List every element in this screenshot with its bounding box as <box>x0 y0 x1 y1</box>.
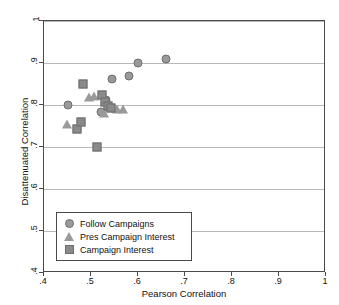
x-tick-label: .7 <box>169 276 199 286</box>
x-tick-label: .6 <box>122 276 152 286</box>
data-point-square <box>93 143 102 152</box>
data-point-triangle <box>118 104 128 113</box>
gridline-y <box>44 21 324 22</box>
y-tick-label-text: .5 <box>29 225 39 233</box>
y-tick-label-text: .7 <box>29 141 39 149</box>
x-tick-label: .5 <box>75 276 105 286</box>
data-point-square <box>78 80 87 89</box>
gridline-y <box>44 189 324 190</box>
y-tick-label-text: .9 <box>29 57 39 65</box>
scatter-plot-figure: .4.5.6.7.8.91.4.5.6.7.8.91 Pearson Corre… <box>0 0 339 305</box>
data-point-square <box>76 117 85 126</box>
gridline-y <box>44 63 324 64</box>
y-tick-mark <box>39 230 43 231</box>
y-tick-label: 1 <box>0 14 38 24</box>
legend-item-square[interactable]: Campaign Interest <box>62 243 186 256</box>
y-tick-label: .9 <box>0 56 38 66</box>
legend-item-label: Campaign Interest <box>80 245 154 255</box>
data-point-circle <box>134 59 143 68</box>
y-tick-label-text: 1 <box>30 16 40 21</box>
y-tick-mark <box>39 188 43 189</box>
triangle-marker-icon <box>62 232 76 241</box>
data-point-circle <box>108 74 117 83</box>
data-point-triangle <box>62 120 72 129</box>
data-point-circle <box>162 54 171 63</box>
x-tick-label: .9 <box>263 276 293 286</box>
legend-item-label: Follow Campaigns <box>80 219 154 229</box>
square-marker-icon <box>62 245 76 254</box>
gridline-y <box>44 147 324 148</box>
data-point-square <box>107 103 116 112</box>
x-tick-label: .4 <box>28 276 58 286</box>
x-axis-title: Pearson Correlation <box>43 288 325 299</box>
y-tick-label-text: .4 <box>29 267 39 275</box>
legend-item-circle[interactable]: Follow Campaigns <box>62 217 186 230</box>
legend-item-triangle[interactable]: Pres Campaign Interest <box>62 230 186 243</box>
y-tick-label-text: .8 <box>29 99 39 107</box>
data-point-circle <box>63 101 72 110</box>
y-tick-mark <box>39 146 43 147</box>
y-tick-label-text: .6 <box>29 183 39 191</box>
y-tick-mark <box>39 104 43 105</box>
y-axis-title: Disattenuated Correlation <box>19 72 30 232</box>
gridline-y <box>44 105 324 106</box>
circle-marker-icon <box>62 219 76 228</box>
x-tick-label: 1 <box>310 276 339 286</box>
chart-legend: Follow CampaignsPres Campaign InterestCa… <box>56 212 192 261</box>
data-point-circle <box>124 71 133 80</box>
y-tick-label: .4 <box>0 266 38 276</box>
x-tick-label: .8 <box>216 276 246 286</box>
legend-item-label: Pres Campaign Interest <box>80 232 175 242</box>
y-tick-mark <box>39 62 43 63</box>
